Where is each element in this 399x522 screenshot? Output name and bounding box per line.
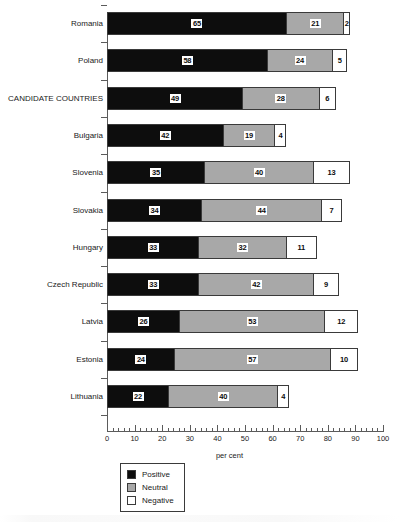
bar-segment-neutral: 42 [198, 274, 313, 295]
bar-row: 265312 [107, 310, 383, 333]
y-tick [101, 117, 107, 118]
bar-segment-value: 24 [295, 56, 306, 65]
bar-segment-neutral: 21 [286, 13, 343, 34]
x-tick-minor [113, 428, 114, 431]
bar-segment-positive: 49 [108, 88, 242, 109]
x-tick-label: 70 [296, 434, 304, 443]
bar-segment-negative: 2 [343, 13, 348, 34]
stacked-bar: 22404 [107, 385, 289, 408]
x-tick-minor [118, 428, 119, 431]
legend-swatch-neutral-icon [127, 483, 136, 492]
x-tick-minor [366, 428, 367, 431]
x-tick-minor [124, 428, 125, 431]
x-tick-minor [295, 428, 296, 431]
y-tick [101, 80, 107, 81]
x-tick-minor [239, 428, 240, 431]
y-tick [101, 303, 107, 304]
x-tick-minor [256, 428, 257, 431]
bar-row: 49286 [107, 87, 383, 110]
legend-swatch-negative-icon [127, 496, 136, 505]
bar-segment-positive: 42 [108, 125, 223, 146]
y-tick [101, 378, 107, 379]
bar-segment-positive: 24 [108, 349, 174, 370]
bar-segment-negative: 4 [274, 125, 285, 146]
category-label: Slovakia [0, 206, 103, 216]
stacked-bar: 49286 [107, 87, 336, 110]
x-tick-minor [350, 428, 351, 431]
y-tick [101, 266, 107, 267]
bar-segment-negative: 10 [330, 349, 357, 370]
bar-row: 58245 [107, 49, 383, 72]
x-tick-minor [212, 428, 213, 431]
bar-segment-negative: 9 [313, 274, 338, 295]
bar-segment-value: 7 [329, 206, 335, 215]
bar-segment-value: 12 [336, 317, 346, 326]
x-tick-minor [372, 428, 373, 431]
x-tick-major [328, 425, 329, 431]
x-tick-label: 50 [241, 434, 249, 443]
bar-segment-positive: 26 [108, 311, 179, 332]
bar-segment-value: 2 [344, 19, 350, 28]
bar-segment-value: 4 [277, 131, 283, 140]
x-tick-minor [140, 428, 141, 431]
bar-segment-neutral: 24 [267, 50, 333, 71]
x-tick-minor [317, 428, 318, 431]
y-tick [101, 42, 107, 43]
y-tick [101, 229, 107, 230]
bar-segment-negative: 13 [313, 162, 349, 183]
bar-segment-value: 33 [148, 280, 159, 289]
x-tick-major [383, 425, 384, 431]
bar-row: 333211 [107, 236, 383, 259]
bar-segment-value: 65 [191, 19, 202, 28]
x-tick-minor [234, 428, 235, 431]
x-tick-major [245, 425, 246, 431]
x-tick-minor [306, 428, 307, 431]
bar-segment-value: 4 [280, 392, 286, 401]
bar-segment-value: 26 [138, 317, 149, 326]
bar-segment-value: 35 [150, 168, 161, 177]
category-label: Slovenia [0, 168, 103, 178]
x-tick-minor [262, 428, 263, 431]
bar-segment-neutral: 28 [242, 88, 319, 109]
legend-item-neutral: Neutral [127, 481, 174, 494]
bar-segment-negative: 12 [324, 311, 357, 332]
bar-segment-negative: 4 [277, 386, 288, 407]
legend-label-positive: Positive [142, 470, 170, 480]
bar-segment-value: 33 [148, 243, 159, 252]
category-label: Latvia [0, 317, 103, 327]
bar-segment-value: 58 [182, 56, 193, 65]
category-label: Lithuania [0, 392, 103, 402]
bar-segment-value: 28 [275, 94, 286, 103]
bar-segment-value: 5 [337, 56, 343, 65]
y-tick [101, 154, 107, 155]
bar-row: 245710 [107, 348, 383, 371]
bar-row: 42194 [107, 124, 383, 147]
category-label: Czech Republic [0, 280, 103, 290]
bar-segment-value: 19 [244, 131, 255, 140]
category-label: Estonia [0, 355, 103, 365]
stacked-bar: 34447 [107, 199, 342, 222]
bar-row: 33429 [107, 273, 383, 296]
bar-segment-neutral: 40 [204, 162, 313, 183]
page-scan-artifact [0, 515, 399, 522]
x-tick-major [273, 425, 274, 431]
x-tick-minor [168, 428, 169, 431]
bar-segment-value: 42 [160, 131, 171, 140]
bar-segment-neutral: 19 [223, 125, 275, 146]
y-tick [101, 192, 107, 193]
legend-label-negative: Negative [142, 496, 174, 506]
stacked-bar: 245710 [107, 348, 358, 371]
bar-segment-positive: 33 [108, 237, 198, 258]
x-tick-minor [311, 428, 312, 431]
x-tick-label: 0 [105, 434, 109, 443]
bar-segment-value: 40 [218, 392, 229, 401]
legend-item-positive: Positive [127, 468, 174, 481]
category-label: Romania [0, 19, 103, 29]
stacked-bar: 42194 [107, 124, 286, 147]
x-tick-major [190, 425, 191, 431]
y-tick [101, 5, 107, 6]
x-tick-major [300, 425, 301, 431]
stacked-bar: 354013 [107, 161, 350, 184]
bar-segment-positive: 22 [108, 386, 168, 407]
y-tick [101, 341, 107, 342]
